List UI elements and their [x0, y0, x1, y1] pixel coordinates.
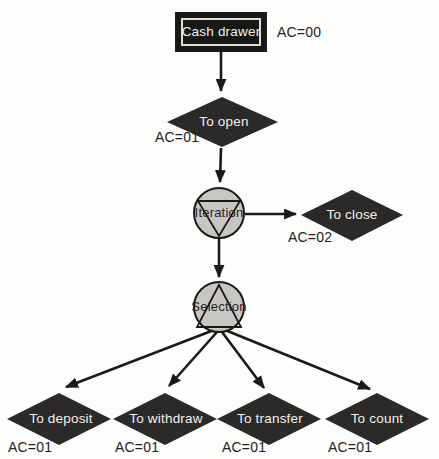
to-deposit-ac-label: AC=01 — [8, 439, 52, 455]
to-transfer-ac-label: AC=01 — [222, 439, 266, 455]
to-transfer-node: To transfer — [217, 393, 321, 445]
to-withdraw-node: To withdraw — [113, 393, 217, 445]
flowchart-canvas: Cash drawer AC=00 To open AC=01 Iteratio… — [0, 0, 439, 459]
arrow-selection-to-count — [225, 330, 370, 389]
iteration-label: Iteration — [195, 205, 244, 220]
to-deposit-label: To deposit — [29, 411, 93, 426]
arrow-selection-to-transfer — [222, 332, 264, 388]
flowchart-page: Cash drawer AC=00 To open AC=01 Iteratio… — [0, 0, 439, 459]
cash-drawer-label: Cash drawer — [182, 24, 261, 39]
to-open-label: To open — [199, 114, 248, 129]
to-close-label: To close — [326, 207, 377, 222]
to-deposit-node: To deposit — [7, 393, 111, 445]
arrow-open-to-iteration — [220, 148, 221, 182]
selection-label: Selection — [191, 299, 246, 314]
iteration-node: Iteration — [194, 188, 244, 238]
to-close-ac-label: AC=02 — [288, 229, 332, 245]
arrow-selection-to-withdraw — [169, 332, 217, 386]
to-transfer-label: To transfer — [237, 411, 303, 426]
to-withdraw-ac-label: AC=01 — [115, 439, 159, 455]
to-count-ac-label: AC=01 — [328, 439, 372, 455]
to-open-ac-label: AC=01 — [155, 129, 199, 145]
to-count-label: To count — [351, 411, 404, 426]
selection-node: Selection — [191, 282, 246, 332]
cash-drawer-node: Cash drawer — [175, 12, 267, 52]
cash-drawer-ac-label: AC=00 — [277, 24, 321, 40]
to-withdraw-label: To withdraw — [129, 411, 203, 426]
to-count-node: To count — [325, 393, 429, 445]
